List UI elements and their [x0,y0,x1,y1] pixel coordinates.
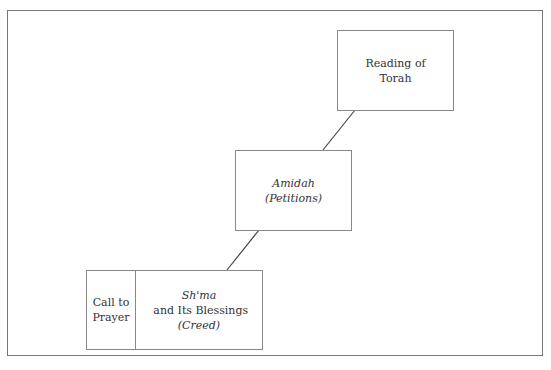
node-title-italic: Sh'ma [182,289,217,302]
node-subtitle: (Creed) [136,318,262,333]
node-shma: Sh'ma and Its Blessings (Creed) [136,271,262,349]
node-reading-of-torah: Reading of Torah [337,30,454,111]
node-subtitle: (Petitions) [265,191,322,206]
node-title: Sh'ma and Its Blessings [136,288,262,318]
node-shma-group: Call to Prayer Sh'ma and Its Blessings (… [86,270,263,350]
node-call-to-prayer: Call to Prayer [87,271,136,349]
node-title: Amidah [265,176,322,191]
node-label-line-1: Reading of [365,56,425,71]
node-amidah: Amidah (Petitions) [235,150,352,231]
connector-shma-to-amidah [227,230,259,270]
node-label-line-2: Torah [365,71,425,86]
node-label-line-1: Call to [92,295,129,310]
node-label-line-2: Prayer [92,310,129,325]
connector-amidah-to-torah [323,110,355,150]
node-title-rest: and Its Blessings [150,304,248,317]
